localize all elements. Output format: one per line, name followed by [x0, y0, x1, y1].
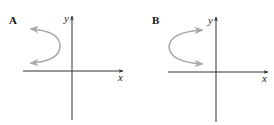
- panel-a-curve-lower: [31, 46, 60, 63]
- panel-b-label: B: [152, 14, 160, 26]
- figure-canvas: A x y B x y: [0, 0, 274, 125]
- panel-b-curve-upper: [169, 30, 202, 47]
- panel-a-curve-upper: [31, 29, 60, 46]
- panel-b: B x y: [152, 14, 268, 122]
- panel-b-x-label: x: [261, 72, 267, 84]
- figure-svg: A x y B x y: [0, 0, 274, 125]
- panel-a: A x y: [9, 12, 123, 120]
- panel-b-curve-lower: [169, 47, 202, 64]
- panel-a-label: A: [9, 14, 17, 26]
- panel-b-y-label: y: [207, 14, 213, 26]
- panel-a-y-label: y: [63, 12, 69, 24]
- panel-a-x-label: x: [117, 71, 123, 83]
